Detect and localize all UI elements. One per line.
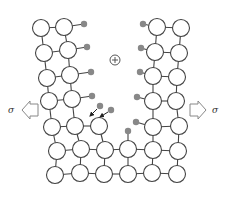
atom [60,42,77,59]
atom [64,91,81,108]
adsorbed-species [81,21,146,134]
attack-arrow [90,109,97,116]
adatom [125,128,131,134]
adatom [89,93,95,99]
adatom [133,119,139,125]
atom [67,118,84,135]
atom [120,166,137,183]
adatom [81,21,87,27]
atom [39,70,56,87]
adatom [137,69,143,75]
atom [49,143,66,160]
atom [145,68,162,85]
stress-arrow-left: σ [8,101,38,119]
atom [170,143,187,160]
atom [145,119,162,136]
adatom [108,107,114,113]
adatom [84,44,90,50]
stress-arrow-right: σ [190,101,219,119]
atom [33,20,50,37]
crack-lattice-diagram: σ σ [0,0,228,197]
adatom [140,21,146,27]
adatom [97,103,103,109]
atom [97,142,114,159]
atom [41,93,58,110]
atom [96,166,113,183]
atom [72,165,89,182]
atom [173,20,190,37]
atom [169,69,186,86]
atom [147,44,164,61]
atom [145,142,162,159]
atom [36,45,53,62]
adatom [134,94,140,100]
atom [47,167,64,184]
atom [62,67,79,84]
stress-label-left: σ [8,105,15,115]
atom [145,93,162,110]
atom [73,141,90,158]
atom [149,19,166,36]
attack-arrow [100,112,108,117]
atom [168,93,185,110]
ion-symbol [110,55,120,65]
atom [56,19,73,36]
atom [144,165,161,182]
atom [91,118,108,135]
atom [171,45,188,62]
atom [120,141,137,158]
atom [44,119,61,136]
stress-label-right: σ [212,105,219,115]
atom [171,118,188,135]
attack-arrows [90,109,108,117]
adatom [88,69,94,75]
adatom [138,45,144,51]
atom [169,166,186,183]
